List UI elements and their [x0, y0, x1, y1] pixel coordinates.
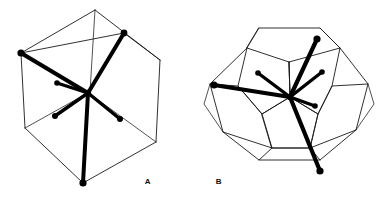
ligand-node	[316, 167, 323, 174]
bond-bottom	[83, 93, 88, 183]
ligand-node	[313, 35, 320, 42]
central-atom-node	[85, 90, 91, 96]
dodeca-back-edge	[247, 28, 259, 48]
ligand-node	[319, 69, 325, 75]
cube-edge	[25, 128, 83, 183]
dodeca-back-edge	[356, 84, 374, 130]
ligand-node	[54, 80, 60, 86]
polyhedra-diagram: A	[0, 0, 385, 199]
bond-lower-left	[55, 93, 88, 116]
cube-edge	[21, 10, 95, 53]
panel-label-a: A	[145, 177, 151, 186]
ligand-node	[17, 49, 24, 56]
central-atom-node	[287, 94, 293, 100]
ligand-node	[312, 103, 318, 109]
dodeca-edge	[259, 148, 272, 160]
panel-a-group: A	[17, 10, 160, 187]
figure-container: A	[0, 0, 385, 199]
ligand-node	[210, 81, 217, 88]
ligand-node	[52, 113, 58, 119]
ligand-node	[117, 116, 123, 122]
dodeca-face-top	[247, 28, 340, 62]
ligand-node	[79, 179, 86, 186]
dodeca-face-front-left	[238, 48, 290, 114]
dodeca-back-edge	[320, 28, 340, 48]
bond-upper-left	[21, 53, 88, 93]
dodeca-back-edge	[204, 84, 223, 132]
cube-edge	[21, 33, 124, 53]
panel-label-b: B	[216, 177, 222, 186]
bond-lower-right	[88, 93, 120, 119]
cube-bonds	[17, 30, 127, 187]
cube-edge	[156, 60, 160, 142]
panel-b-group: B	[204, 28, 374, 186]
cube-edge	[124, 33, 160, 60]
ligand-node	[121, 30, 128, 37]
ligand-node	[255, 70, 261, 76]
dodecahedron-bonds	[210, 35, 324, 174]
dodeca-back-edge	[289, 62, 290, 95]
cube-edge	[21, 53, 25, 128]
